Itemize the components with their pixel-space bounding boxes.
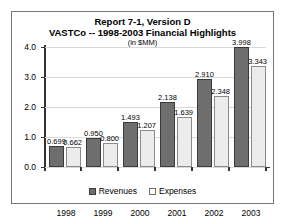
gridline-4	[44, 47, 266, 48]
x-category-label-2001: 2001	[168, 208, 187, 217]
y-tick-mark-0: 0.0	[41, 167, 45, 169]
bar-label-expenses-2003: 3.343	[248, 57, 267, 66]
x-category-label-1999: 1999	[94, 208, 113, 217]
bar-label-expenses-2002: 2.348	[211, 87, 230, 96]
bar-expenses-2000[interactable]: 1.207	[140, 130, 155, 166]
y-tick-label-0: 0.0	[24, 162, 36, 172]
x-category-label-2000: 2000	[131, 208, 150, 217]
y-tick-label-4: 4.0	[24, 42, 36, 52]
legend-label-revenues: Revenues	[99, 186, 137, 196]
bar-label-revenues-2001: 2.138	[158, 93, 177, 102]
bar-revenues-1999[interactable]: 0.950	[86, 138, 101, 167]
bar-revenues-1998[interactable]: 0.699	[49, 146, 64, 167]
y-tick-label-3: 3.0	[24, 72, 36, 82]
chart-title-line-1: Report 7-1, Version D	[12, 16, 273, 27]
x-tick-mark-2	[154, 167, 156, 171]
bar-revenues-2001[interactable]: 2.138	[160, 102, 175, 166]
legend-label-expenses: Expenses	[159, 186, 196, 196]
y-tick-mark-3: 3.0	[41, 77, 45, 79]
legend-item-revenues[interactable]: Revenues	[89, 186, 137, 196]
legend-swatch-expenses-icon	[149, 188, 156, 195]
chart-frame: Report 7-1, Version D VASTCo -- 1998-200…	[11, 11, 274, 204]
bar-revenues-2003[interactable]: 3.998	[234, 47, 249, 167]
bar-expenses-2003[interactable]: 3.343	[251, 66, 266, 166]
legend-item-expenses[interactable]: Expenses	[149, 186, 196, 196]
x-tick-mark-3	[191, 167, 193, 171]
y-tick-mark-2: 2.0	[41, 107, 45, 109]
bar-label-expenses-1999: 0.800	[100, 134, 119, 143]
bar-label-revenues-2003: 3.998	[232, 38, 251, 47]
x-tick-mark-0	[80, 167, 82, 171]
chart-title-block: Report 7-1, Version D VASTCo -- 1998-200…	[12, 16, 273, 38]
x-category-label-2003: 2003	[242, 208, 261, 217]
bar-revenues-2000[interactable]: 1.493	[123, 122, 138, 167]
x-category-label-2002: 2002	[205, 208, 224, 217]
bar-expenses-1998[interactable]: 0.662	[66, 147, 81, 167]
y-tick-label-1: 1.0	[24, 132, 36, 142]
gridline-3	[44, 77, 266, 78]
bar-label-expenses-2001: 1.639	[174, 108, 193, 117]
legend-swatch-revenues-icon	[89, 188, 96, 195]
bar-label-expenses-1998: 0.662	[63, 138, 82, 147]
bar-expenses-1999[interactable]: 0.800	[103, 143, 118, 167]
bar-expenses-2001[interactable]: 1.639	[177, 117, 192, 166]
gridline-2	[44, 107, 266, 108]
y-tick-mark-4: 4.0	[41, 47, 45, 49]
chart-title-line-2: VASTCo -- 1998-2003 Financial Highlights	[12, 27, 273, 38]
y-tick-label-2: 2.0	[24, 102, 36, 112]
x-category-label-1998: 1998	[57, 208, 76, 217]
x-tick-mark-1	[117, 167, 119, 171]
plot-area: 0.0 1.0 2.0 3.0 4.0 0.699 0.662	[44, 48, 266, 168]
bar-revenues-2002[interactable]: 2.910	[197, 79, 212, 166]
y-axis-line	[44, 45, 46, 171]
bar-label-revenues-2002: 2.910	[195, 70, 214, 79]
x-tick-mark-5	[265, 167, 267, 171]
bar-label-expenses-2000: 1.207	[137, 121, 156, 130]
bar-expenses-2002[interactable]: 2.348	[214, 96, 229, 166]
chart-legend: Revenues Expenses	[12, 186, 273, 196]
x-tick-mark-4	[228, 167, 230, 171]
y-tick-mark-1: 1.0	[41, 137, 45, 139]
